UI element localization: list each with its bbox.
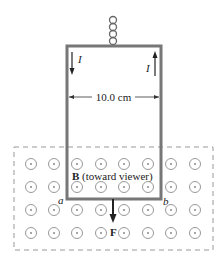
current-arrow-up-icon	[153, 51, 158, 76]
field-dot-icon	[53, 232, 55, 234]
current-label-left: I	[77, 53, 83, 65]
field-dot-icon	[147, 163, 149, 165]
field-dot-icon	[76, 163, 78, 165]
corner-a-label: a	[58, 194, 64, 206]
field-dot-icon	[147, 232, 149, 234]
field-dot-icon	[53, 209, 55, 211]
field-dot-icon	[170, 209, 172, 211]
field-dot-icon	[194, 209, 196, 211]
field-dot-icon	[170, 186, 172, 188]
field-dot-icon	[53, 186, 55, 188]
spring-icon	[110, 17, 117, 45]
field-dot-icon	[170, 163, 172, 165]
diagram-canvas: I I 10.0 cm B (toward viewer) a b F	[0, 0, 224, 261]
field-dot-icon	[30, 186, 32, 188]
field-dot-icon	[123, 232, 125, 234]
field-dot-icon	[30, 232, 32, 234]
field-dot-icon	[100, 209, 102, 211]
field-dot-icon	[100, 163, 102, 165]
field-dot-icon	[30, 209, 32, 211]
field-dot-icon	[100, 232, 102, 234]
field-dot-icon	[76, 232, 78, 234]
field-dot-icon	[194, 186, 196, 188]
field-dot-icon	[76, 186, 78, 188]
field-dot-icon	[123, 209, 125, 211]
field-label-description: (toward viewer)	[79, 170, 153, 183]
force-label: F	[110, 226, 117, 238]
width-label: 10.0 cm	[96, 91, 132, 103]
field-dot-icon	[147, 209, 149, 211]
field-dot-icon	[30, 163, 32, 165]
current-label-right: I	[145, 62, 151, 74]
field-dot-icon	[194, 232, 196, 234]
field-dot-icon	[147, 186, 149, 188]
force-arrow-icon	[110, 199, 117, 223]
field-dot-icon	[194, 163, 196, 165]
field-dot-icon	[76, 209, 78, 211]
current-arrow-down-icon	[70, 52, 75, 75]
field-dot-icon	[170, 232, 172, 234]
field-dot-icon	[53, 163, 55, 165]
field-label: B (toward viewer)	[72, 170, 153, 183]
field-dot-icon	[123, 163, 125, 165]
field-dot-icon	[100, 186, 102, 188]
field-dot-icon	[123, 186, 125, 188]
corner-b-label: b	[163, 195, 169, 207]
